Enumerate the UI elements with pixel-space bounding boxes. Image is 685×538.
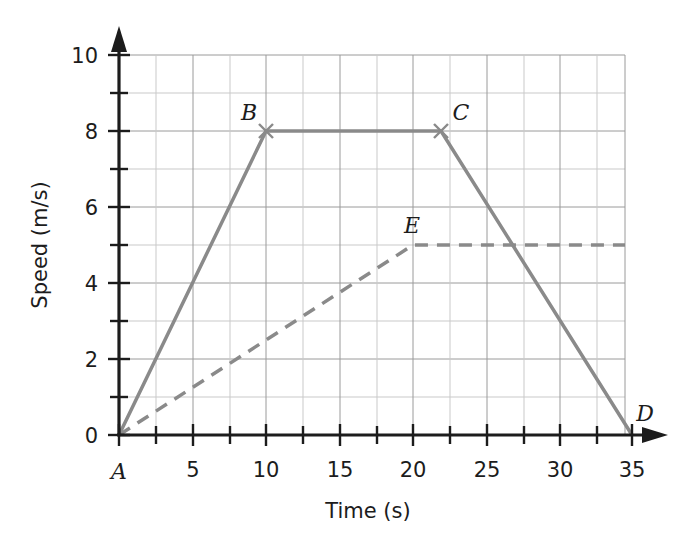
x-tick-label-15: 15 xyxy=(327,458,354,482)
x-tick-label-30: 30 xyxy=(547,458,574,482)
point-label-C: C xyxy=(453,100,470,125)
x-tick-label-10: 10 xyxy=(253,458,280,482)
x-axis xyxy=(117,424,668,446)
x-tick-labels: 5 10 15 20 25 30 35 xyxy=(186,458,645,482)
point-label-E: E xyxy=(403,213,420,238)
y-tick-label-0: 0 xyxy=(85,424,98,448)
y-tick-label-6: 6 xyxy=(85,196,98,220)
point-label-B: B xyxy=(240,100,257,125)
x-tick-label-35: 35 xyxy=(619,458,646,482)
x-tick-label-5: 5 xyxy=(186,458,199,482)
point-label-D: D xyxy=(635,401,654,426)
y-axis xyxy=(108,26,130,436)
y-tick-label-10: 10 xyxy=(71,44,98,68)
x-tick-label-20: 20 xyxy=(400,458,427,482)
y-tick-labels: 0 2 4 6 8 10 xyxy=(71,44,98,448)
y-tick-label-2: 2 xyxy=(85,348,98,372)
y-tick-label-8: 8 xyxy=(85,120,98,144)
y-tick-label-4: 4 xyxy=(85,272,98,296)
y-axis-title: Speed (m/s) xyxy=(28,181,52,308)
dashed-series-line xyxy=(119,245,625,435)
speed-time-graph-figure: 0 2 4 6 8 10 5 10 15 20 25 30 35 A B C D… xyxy=(0,0,685,538)
chart-canvas: 0 2 4 6 8 10 5 10 15 20 25 30 35 A B C D… xyxy=(0,0,685,538)
x-axis-title: Time (s) xyxy=(324,499,410,523)
point-labels: A B C D E xyxy=(109,100,654,484)
x-tick-label-25: 25 xyxy=(474,458,501,482)
point-label-A: A xyxy=(109,459,127,484)
